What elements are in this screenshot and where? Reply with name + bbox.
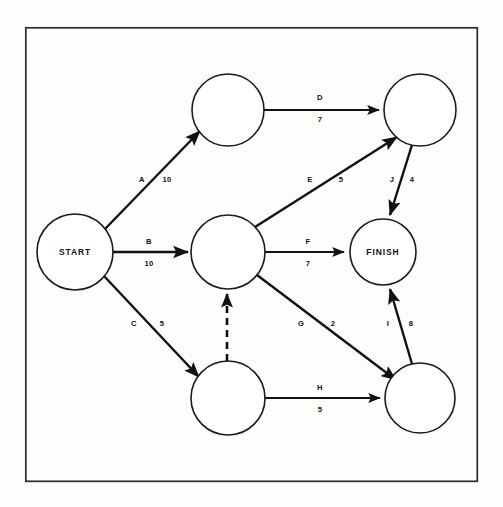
node-n3-circle[interactable] <box>191 215 265 289</box>
edge-I-activity-label: I <box>387 319 389 328</box>
edge-F-duration-label: 7 <box>306 259 311 268</box>
edge-D-activity-label: D <box>317 93 323 102</box>
edge-E-duration-label: 5 <box>339 175 344 184</box>
edge-C: C 5 <box>104 276 199 377</box>
node-start[interactable]: START <box>37 214 113 290</box>
edge-B: B 10 <box>113 237 188 268</box>
node-n3[interactable] <box>191 215 265 289</box>
edge-E-line <box>255 137 397 227</box>
edge-J-duration-label: 4 <box>410 175 415 184</box>
edge-I: I 8 <box>387 289 413 364</box>
edge-E: E 5 <box>255 137 397 227</box>
edge-E-activity-label: E <box>307 175 312 184</box>
edge-J: J 4 <box>390 145 415 215</box>
edge-D-duration-label: 7 <box>318 115 323 124</box>
nodes-layer: START FINISH <box>37 74 456 435</box>
edge-G: G 2 <box>257 275 396 380</box>
edge-B-duration-label: 10 <box>144 259 153 268</box>
edge-G-line <box>257 275 396 380</box>
network-diagram: A 10 B 10 C 5 D 7 <box>0 0 503 507</box>
node-n7[interactable] <box>385 363 455 433</box>
edge-C-activity-label: C <box>131 319 137 328</box>
node-start-label: START <box>59 247 91 257</box>
node-finish[interactable]: FINISH <box>350 219 416 285</box>
edge-G-activity-label: G <box>298 319 304 328</box>
node-n4[interactable] <box>191 361 265 435</box>
node-n2-circle[interactable] <box>192 74 264 146</box>
edge-D: D 7 <box>264 93 379 124</box>
edge-J-activity-label: J <box>390 175 395 184</box>
edge-G-duration-label: 2 <box>331 319 336 328</box>
edge-A-line <box>105 131 200 229</box>
node-n4-circle[interactable] <box>191 361 265 435</box>
edge-I-duration-label: 8 <box>409 319 414 328</box>
edge-C-line <box>104 276 199 377</box>
edge-H-duration-label: 5 <box>318 405 323 414</box>
node-n5[interactable] <box>384 74 456 146</box>
edge-H-activity-label: H <box>317 383 323 392</box>
node-finish-label: FINISH <box>366 247 399 257</box>
edge-C-duration-label: 5 <box>160 319 165 328</box>
edge-H: H 5 <box>265 383 380 414</box>
edge-A-activity-label: A <box>139 175 145 184</box>
edge-F: F 7 <box>265 237 344 268</box>
node-n2[interactable] <box>192 74 264 146</box>
network-diagram-canvas: A 10 B 10 C 5 D 7 <box>0 0 503 507</box>
edge-A-duration-label: 10 <box>162 175 171 184</box>
edge-A: A 10 <box>105 131 200 229</box>
edge-B-activity-label: B <box>146 237 152 246</box>
edge-F-activity-label: F <box>306 237 311 246</box>
node-n5-circle[interactable] <box>384 74 456 146</box>
node-n7-circle[interactable] <box>385 363 455 433</box>
